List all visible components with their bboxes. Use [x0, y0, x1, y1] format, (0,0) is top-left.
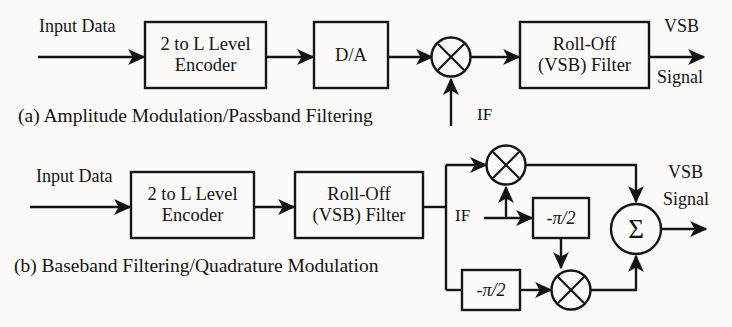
b-input-data-label: Input Data: [36, 167, 112, 186]
a-encoder-box-label: 2 to L Level Encoder: [145, 22, 266, 88]
b-summer-label: Σ: [611, 204, 661, 254]
b-encoder-label-line1: 2 to L Level: [147, 184, 237, 205]
a-output-label-line1: VSB: [664, 17, 699, 36]
a-encoder-label-line1: 2 to L Level: [160, 34, 250, 55]
a-rolloff-filter-line1: Roll-Off: [553, 34, 616, 55]
b-encoder-box-label: 2 to L Level Encoder: [131, 172, 254, 238]
a-encoder-label-line2: Encoder: [175, 55, 237, 76]
b-rolloff-filter-label: Roll-Off (VSB) Filter: [295, 172, 423, 238]
a-output-label-line2: Signal: [657, 68, 703, 87]
b-lower-phase-shifter-label: -π/2: [462, 270, 520, 310]
b-top-multiplier-to-summer-path: [526, 165, 636, 202]
a-da-box-label: D/A: [314, 22, 388, 88]
a-rolloff-filter-line2: (VSB) Filter: [538, 55, 631, 76]
b-rolloff-filter-line1: Roll-Off: [327, 184, 390, 205]
b-if-label: IF: [455, 207, 470, 225]
b-bottom-multiplier-to-summer-path: [591, 256, 636, 290]
vsb-modulation-figure: Input Data 2 to L Level Encoder D/A IF R…: [0, 0, 732, 327]
a-input-data-label: Input Data: [39, 17, 115, 36]
b-encoder-label-line2: Encoder: [162, 205, 224, 226]
a-rolloff-filter-label: Roll-Off (VSB) Filter: [520, 22, 649, 88]
b-upper-phase-shifter-label: -π/2: [533, 198, 589, 238]
diagram-a-caption: (a) Amplitude Modulation/Passband Filter…: [18, 106, 373, 126]
a-da-label: D/A: [335, 45, 367, 66]
diagram-b-caption: (b) Baseband Filtering/Quadrature Modula…: [14, 256, 378, 276]
b-output-label-line1: VSB: [668, 163, 703, 182]
b-output-label-line2: Signal: [663, 190, 709, 209]
a-if-label: IF: [477, 106, 492, 124]
b-rolloff-filter-line2: (VSB) Filter: [312, 205, 405, 226]
